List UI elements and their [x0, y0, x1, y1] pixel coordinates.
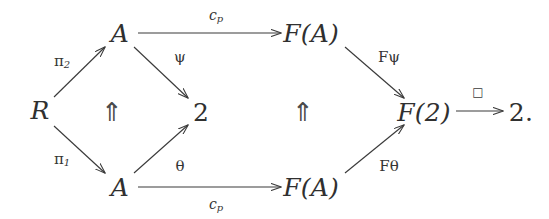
- node-two-middle: 2: [193, 100, 209, 125]
- node-A-top: A: [111, 21, 129, 46]
- label-cp-bottom: cp: [209, 197, 223, 214]
- label-cp-bottom-subscript: p: [217, 202, 223, 213]
- label-pi1: π1: [54, 152, 70, 169]
- label-cp-top: cp: [209, 8, 223, 25]
- label-pi2-base: π: [54, 52, 64, 70]
- label-pi2: π2: [54, 54, 70, 71]
- two-cell-right-double-arrow-icon: ⇑: [292, 99, 314, 125]
- two-cell-left-double-arrow-icon: ⇑: [101, 99, 123, 125]
- label-box-square-icon: □: [472, 86, 483, 98]
- node-FA-bottom: F(A): [283, 175, 339, 200]
- node-FA-top: F(A): [283, 21, 339, 46]
- label-pi2-subscript: 2: [64, 59, 70, 70]
- label-cp-bottom-base: c: [209, 196, 217, 212]
- node-A-bottom: A: [111, 175, 129, 200]
- diagram-arrows-layer: [0, 0, 549, 219]
- diagram-canvas: R A A 2 F(A) F(A) F(2) 2. π2 π1 ψ θ cp c…: [0, 0, 549, 219]
- label-pi1-subscript: 1: [64, 157, 70, 168]
- node-F2: F(2): [397, 100, 451, 125]
- label-cp-top-base: c: [209, 7, 217, 23]
- label-cp-top-subscript: p: [217, 13, 223, 24]
- label-psi: ψ: [174, 50, 186, 65]
- label-Fpsi: Fψ: [378, 50, 400, 65]
- label-Ftheta: Fθ: [379, 159, 398, 174]
- label-theta: θ: [175, 159, 184, 174]
- label-pi1-base: π: [54, 150, 64, 168]
- node-R: R: [30, 98, 49, 123]
- node-two-end: 2.: [509, 100, 533, 125]
